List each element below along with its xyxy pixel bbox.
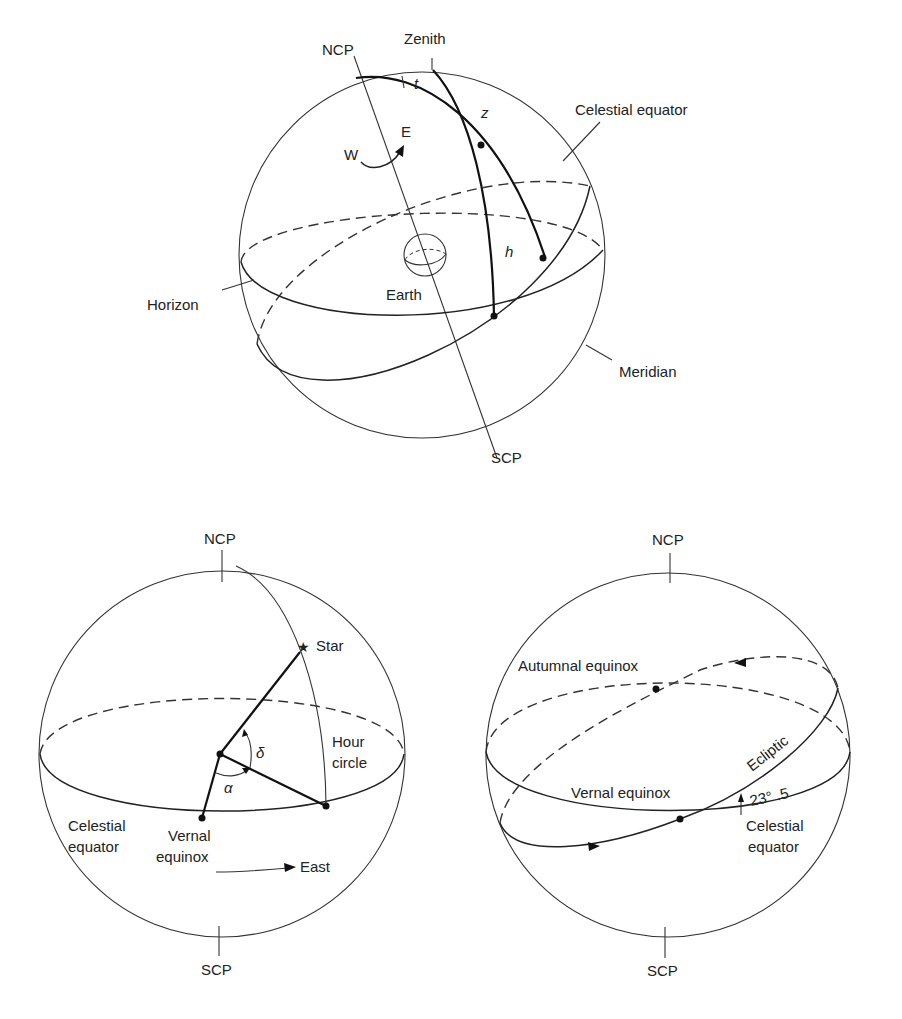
- horizon-point: [491, 313, 498, 320]
- celestial-equator-leader: [563, 122, 600, 161]
- zenith-label: Zenith: [404, 30, 446, 47]
- celestial-sphere-figure: NCP Zenith t z E W Celestial equator h E…: [0, 0, 902, 1019]
- scp-label: SCP: [491, 449, 522, 466]
- hour-circle-point: [323, 803, 330, 810]
- left-sphere-diagram: ★ NCP Star δ α Hour circle Celestial equ…: [39, 530, 405, 978]
- ncp-label: NCP: [322, 41, 354, 58]
- autumnal-equinox-label: Autumnal equinox: [518, 657, 639, 674]
- star-label: Star: [316, 637, 344, 654]
- earth-label: Earth: [386, 286, 422, 303]
- hour-circle-label-1: Hour: [332, 733, 365, 750]
- hour-circle-label-2: circle: [332, 754, 367, 771]
- vernal-radius: [202, 754, 220, 818]
- right-sphere-outline: [486, 573, 850, 937]
- polar-axis: [354, 56, 497, 458]
- top-sphere-outline: [239, 72, 605, 438]
- obliquity-arrowhead: [738, 793, 744, 802]
- rotation-arrow: [361, 152, 400, 167]
- horizon-label: Horizon: [147, 296, 199, 313]
- t-label: t: [414, 75, 419, 92]
- ncp-label: NCP: [204, 530, 236, 547]
- e-label: E: [401, 123, 411, 140]
- meridian-leader: [586, 345, 612, 360]
- rotation-arrowhead: [395, 145, 404, 157]
- star-radius: [220, 652, 300, 754]
- obliquity-label: 23° .5: [748, 784, 790, 809]
- h-label: h: [505, 243, 513, 260]
- ecliptic-label: Ecliptic: [743, 731, 791, 774]
- top-sphere-diagram: NCP Zenith t z E W Celestial equator h E…: [147, 30, 688, 466]
- horizon-front: [241, 250, 603, 315]
- vernal-equinox-point: [199, 815, 206, 822]
- celestial-equator-label-1: Celestial: [746, 817, 804, 834]
- horizon-back: [241, 213, 603, 262]
- scp-label: SCP: [647, 962, 678, 979]
- hour-circle-arc: [356, 77, 545, 257]
- vernal-equinox-point: [677, 816, 684, 823]
- star-point: [478, 142, 485, 149]
- celestial-equator-label: Celestial equator: [575, 101, 688, 118]
- ecliptic-arrow-back: [734, 658, 746, 667]
- equator-front: [486, 752, 850, 811]
- autumnal-equinox-point: [653, 686, 660, 693]
- delta-label: δ: [256, 744, 265, 761]
- star-icon: ★: [297, 639, 310, 655]
- center-point: [217, 751, 224, 758]
- east-arrowhead: [284, 863, 296, 872]
- right-ascension-arc: [216, 770, 247, 776]
- ncp-label: NCP: [652, 531, 684, 548]
- east-label: East: [300, 858, 331, 875]
- celestial-equator-label-2: equator: [748, 838, 799, 855]
- celestial-equator-back: [257, 181, 590, 344]
- horizon-leader: [222, 280, 254, 290]
- alpha-label: α: [224, 779, 233, 796]
- vernal-equinox-label-1: Vernal: [168, 827, 211, 844]
- scp-label: SCP: [201, 961, 232, 978]
- east-arrow: [216, 868, 288, 872]
- vernal-equinox-label-2: equinox: [156, 848, 209, 865]
- equator-back: [486, 683, 850, 752]
- w-label: W: [344, 146, 359, 163]
- celestial-equator-label-2: equator: [68, 838, 119, 855]
- celestial-equator-front: [257, 186, 590, 380]
- celestial-equator-label-1: Celestial: [68, 817, 126, 834]
- vernal-equinox-label: Vernal equinox: [571, 784, 671, 801]
- declination-arc: [244, 731, 251, 768]
- meridian-label: Meridian: [619, 363, 677, 380]
- hour-circle-radius: [220, 754, 326, 806]
- equator-point: [540, 255, 547, 262]
- right-sphere-diagram: NCP Autumnal equinox Ecliptic Vernal equ…: [486, 531, 850, 979]
- z-label: z: [480, 104, 489, 121]
